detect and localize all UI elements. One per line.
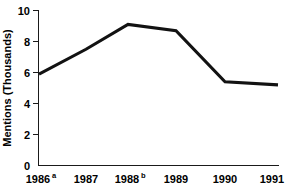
y-tick-label-10: 10 xyxy=(18,5,30,17)
y-tick-label-8: 8 xyxy=(24,36,30,48)
y-tick-label-0: 0 xyxy=(24,160,30,172)
x-tick-label-1989: 1989 xyxy=(164,173,188,185)
x-tick-label-1988-text: 1988 xyxy=(115,173,139,185)
line-chart: Mentions (Thousands) 10 8 6 4 2 0 1986 a… xyxy=(0,0,289,190)
x-tick-label-1986-text: 1986 xyxy=(26,173,50,185)
chart-canvas: Mentions (Thousands) 10 8 6 4 2 0 1986 a… xyxy=(0,0,289,190)
x-tick-label-1988: 1988 b xyxy=(115,171,146,185)
y-tick-label-4: 4 xyxy=(24,98,31,110)
x-tick-label-1991: 1991 xyxy=(260,173,284,185)
y-tick-label-2: 2 xyxy=(24,129,30,141)
x-tick-label-1987: 1987 xyxy=(74,173,98,185)
x-tick-superscript-a: a xyxy=(52,171,57,180)
x-tick-label-1990: 1990 xyxy=(213,173,237,185)
y-axis-title: Mentions (Thousands) xyxy=(1,29,13,147)
x-tick-superscript-b: b xyxy=(141,171,146,180)
y-tick-label-6: 6 xyxy=(24,67,30,79)
series-line-mentions xyxy=(39,24,278,84)
x-tick-label-1986: 1986 a xyxy=(26,171,57,185)
